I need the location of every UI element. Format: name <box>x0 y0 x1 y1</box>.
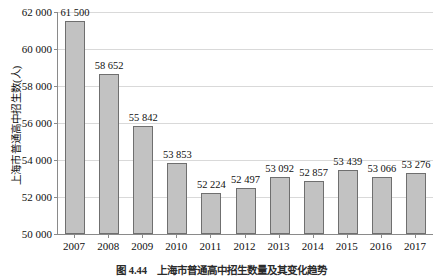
bar <box>99 74 119 234</box>
y-axis-tick-label: 56 000 <box>22 117 52 129</box>
bar <box>338 170 358 234</box>
x-tick-mark <box>381 234 382 238</box>
bar <box>304 181 324 234</box>
figure-caption-number: 图 4.44 <box>116 265 147 276</box>
y-tick-mark <box>54 234 58 235</box>
x-tick-mark <box>108 234 109 238</box>
bar-group: 53 092 <box>263 12 297 234</box>
bar-group: 61 500 <box>58 12 92 234</box>
bar <box>236 188 256 234</box>
x-tick-mark <box>176 234 177 238</box>
y-axis-tick-label: 60 000 <box>22 43 52 55</box>
bar-value-label: 52 224 <box>197 179 226 190</box>
bar-group: 58 652 <box>92 12 126 234</box>
x-tick-mark <box>313 234 314 238</box>
bar-value-label: 55 842 <box>129 112 158 123</box>
y-axis-title: 上海市普通高中招生数(人) <box>12 30 23 220</box>
bar-value-label: 58 652 <box>95 60 124 71</box>
bar-group: 55 842 <box>126 12 160 234</box>
y-axis-tick-label: 62 000 <box>22 6 52 18</box>
y-axis-tick-label: 50 000 <box>22 228 52 240</box>
bar-group: 52 224 <box>194 12 228 234</box>
bar <box>201 193 221 234</box>
y-axis-tick-label: 54 000 <box>22 154 52 166</box>
bar <box>406 173 426 234</box>
bar-value-label: 53 853 <box>163 149 192 160</box>
bar-value-label: 53 066 <box>367 163 396 174</box>
bar-value-label: 53 276 <box>402 159 431 170</box>
x-tick-mark <box>74 234 75 238</box>
y-axis-tick-label: 58 000 <box>22 80 52 92</box>
bar-value-label: 53 439 <box>333 156 362 167</box>
bars-group: 61 50058 65255 84253 85352 22452 49753 0… <box>58 12 433 234</box>
bar <box>133 126 153 234</box>
x-tick-mark <box>142 234 143 238</box>
bar-group: 53 853 <box>160 12 194 234</box>
x-axis-tick-label: 2017 <box>395 240 435 252</box>
bar-group: 53 439 <box>331 12 365 234</box>
y-axis-tick-label: 52 000 <box>22 191 52 203</box>
bar <box>65 21 85 234</box>
bar-group: 52 857 <box>297 12 331 234</box>
bar <box>270 177 290 234</box>
axis-baseline <box>58 234 433 235</box>
bar-value-label: 61 500 <box>61 7 90 18</box>
x-tick-mark <box>210 234 211 238</box>
bar-group: 52 497 <box>229 12 263 234</box>
x-tick-mark <box>245 234 246 238</box>
x-tick-mark <box>347 234 348 238</box>
figure-caption-text: 上海市普通高中招生数量及其变化趋势 <box>157 265 327 276</box>
bar-value-label: 52 497 <box>231 174 260 185</box>
bar <box>372 177 392 234</box>
x-tick-mark <box>415 234 416 238</box>
bar-value-label: 53 092 <box>265 163 294 174</box>
bar-chart-figure: 上海市普通高中招生数(人) 50 00052 00054 00056 00058… <box>0 0 443 276</box>
plot-area: 50 00052 00054 00056 00058 00060 00062 0… <box>57 12 432 234</box>
x-tick-mark <box>279 234 280 238</box>
bar <box>167 163 187 234</box>
bar-group: 53 276 <box>399 12 433 234</box>
figure-caption: 图 4.44上海市普通高中招生数量及其变化趋势 <box>0 262 443 276</box>
bar-value-label: 52 857 <box>299 167 328 178</box>
bar-group: 53 066 <box>365 12 399 234</box>
